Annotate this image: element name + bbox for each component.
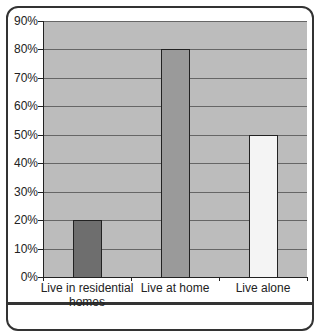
y-tick <box>38 192 43 193</box>
y-tick <box>38 220 43 221</box>
y-tick-label: 30% <box>4 186 38 198</box>
y-tick <box>38 163 43 164</box>
y-tick <box>38 49 43 50</box>
y-tick-label: 70% <box>4 72 38 84</box>
y-tick-label: 10% <box>4 243 38 255</box>
bar <box>73 220 102 278</box>
x-category-label-line: homes <box>37 295 137 309</box>
bar <box>249 135 278 278</box>
y-tick-label: 50% <box>4 129 38 141</box>
x-category-label: Live in residentialhomes <box>37 281 137 309</box>
y-tick <box>38 106 43 107</box>
y-tick <box>38 249 43 250</box>
x-category-label: Live at home <box>125 281 225 295</box>
x-category-label-line: Live alone <box>213 281 313 295</box>
x-category-label-line: Live in residential <box>37 281 137 295</box>
y-tick-label: 80% <box>4 43 38 55</box>
y-tick-label: 0% <box>4 271 38 283</box>
y-tick <box>38 135 43 136</box>
x-category-label: Live alone <box>213 281 313 295</box>
x-category-label-line: Live at home <box>125 281 225 295</box>
y-tick-label: 20% <box>4 214 38 226</box>
gridline <box>44 21 307 22</box>
y-tick <box>38 21 43 22</box>
y-tick-label: 60% <box>4 100 38 112</box>
y-tick-label: 90% <box>4 15 38 27</box>
y-tick-label: 40% <box>4 157 38 169</box>
bar <box>161 49 190 278</box>
y-tick <box>38 78 43 79</box>
